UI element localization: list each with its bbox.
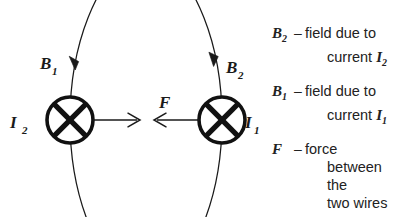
legend-symbol-b2: B2 <box>272 24 294 48</box>
label-force-f: F <box>158 93 171 112</box>
legend-dash-b1: – <box>294 82 305 100</box>
wire-symbol-right <box>199 97 245 143</box>
label-current-i1-symbol: I <box>244 113 253 132</box>
legend-dash-f: – <box>294 140 305 158</box>
label-field-b1-symbol: B <box>39 54 51 73</box>
label-current-i2-subscript: 2 <box>21 124 28 136</box>
legend-symbol-f: F <box>272 140 294 158</box>
legend-text-b1-line1: field due to <box>305 82 405 100</box>
figure-container: I 2 I 1 B 1 B 2 F B2 – field due to curr… <box>0 0 405 217</box>
legend-text-b2-line2: current I2 <box>327 49 387 65</box>
legend-text-b2-line1: field due to <box>305 24 405 42</box>
legend-entry-b1: B1 – field due to current I1 <box>272 82 405 130</box>
label-current-i1-subscript: 1 <box>254 124 260 136</box>
legend-symbol-b1: B1 <box>272 82 294 106</box>
legend-text-f-line2: between the <box>327 159 382 193</box>
legend-text-b1-line2: current I1 <box>327 107 387 123</box>
legend: B2 – field due to current I2 B1 – field … <box>272 24 405 212</box>
label-field-b2-symbol: B <box>225 58 237 77</box>
wire-symbol-left <box>47 97 93 143</box>
label-field-b2-subscript: 2 <box>237 69 244 81</box>
arrowhead-b1 <box>69 54 81 70</box>
legend-text-f-line1: force <box>305 140 405 158</box>
label-current-i2-symbol: I <box>9 113 18 132</box>
label-field-b1-subscript: 1 <box>52 65 58 77</box>
legend-text-f-line3: two wires <box>327 195 387 211</box>
legend-entry-f: F – force between the two wires <box>272 140 405 212</box>
legend-dash-b2: – <box>294 24 305 42</box>
force-arrow-right <box>154 113 199 127</box>
force-arrow-left <box>93 113 140 127</box>
legend-entry-b2: B2 – field due to current I2 <box>272 24 405 72</box>
